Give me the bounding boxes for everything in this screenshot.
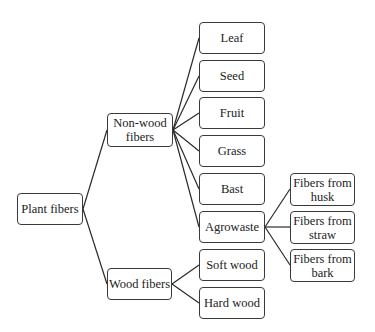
node-fibers-from-straw: Fibers from straw (290, 211, 355, 244)
node-bast: Bast (199, 173, 265, 205)
edge-nonwood-grass (173, 130, 199, 151)
node-label: Plant fibers (21, 202, 78, 216)
node-non-wood-fibers: Non-wood fibers (107, 113, 173, 147)
node-fibers-from-husk: Fibers from husk (290, 173, 355, 206)
node-label: Hard wood (204, 296, 260, 310)
edge-plant-wood (83, 209, 107, 284)
node-label: Bast (221, 182, 243, 196)
node-label: Grass (218, 144, 246, 158)
edge-nonwood-agrowaste (173, 130, 199, 227)
node-plant-fibers: Plant fibers (17, 193, 83, 225)
node-fruit: Fruit (199, 97, 265, 129)
node-label-line2: bark (311, 266, 333, 280)
node-wood-fibers: Wood fibers (107, 268, 172, 300)
node-label-line1: Non-wood (113, 116, 166, 130)
node-agrowaste: Agrowaste (199, 211, 265, 243)
node-label: Leaf (221, 31, 244, 45)
edge-agrowaste-bark (265, 227, 290, 265)
node-label: Seed (220, 69, 244, 83)
edge-agrowaste-husk (265, 189, 290, 227)
node-label-line2: fibers (126, 130, 154, 144)
node-soft-wood: Soft wood (199, 249, 265, 281)
edge-wood-hardwood (172, 284, 199, 303)
node-grass: Grass (199, 135, 265, 167)
node-label-line1: Fibers from (293, 252, 352, 266)
node-label-line1: Fibers from (293, 214, 352, 228)
node-label-line2: straw (309, 228, 336, 242)
node-label: Agrowaste (205, 220, 259, 234)
node-seed: Seed (199, 60, 265, 92)
node-hard-wood: Hard wood (199, 287, 265, 319)
node-label-line2: husk (311, 190, 335, 204)
node-label: Wood fibers (109, 277, 170, 291)
node-label: Soft wood (206, 258, 258, 272)
node-fibers-from-bark: Fibers from bark (290, 249, 355, 282)
edge-plant-nonwood (83, 130, 107, 209)
node-leaf: Leaf (199, 22, 265, 54)
node-label: Fruit (220, 106, 244, 120)
edge-wood-softwood (172, 265, 199, 284)
tree-connectors (0, 0, 375, 332)
node-label-line1: Fibers from (293, 176, 352, 190)
